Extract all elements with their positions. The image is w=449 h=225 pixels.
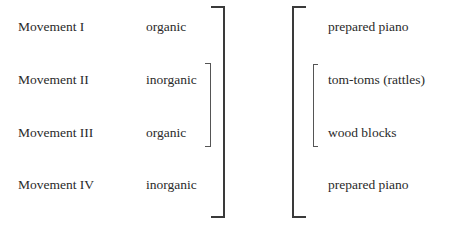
instrument-label: prepared piano [328, 19, 409, 35]
instrument-label: wood blocks [328, 125, 397, 141]
movement-name: Movement IV [18, 177, 94, 193]
movement-type: inorganic [146, 72, 197, 88]
instrument-label: prepared piano [328, 177, 409, 193]
movement-name: Movement I [18, 19, 84, 35]
movement-type: organic [146, 19, 186, 35]
movement-type: organic [146, 125, 186, 141]
instrument-label: tom-toms (rattles) [328, 72, 425, 88]
movement-type: inorganic [146, 177, 197, 193]
movement-name: Movement III [18, 125, 93, 141]
movement-name: Movement II [18, 72, 89, 88]
